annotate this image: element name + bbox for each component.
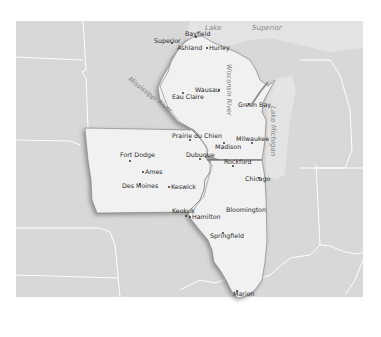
city-fort-dodge: Fort Dodge — [120, 151, 155, 159]
city-rockford: Rockford — [224, 158, 252, 165]
city-hamilton: Hamilton — [192, 213, 221, 220]
city-madison: Madison — [215, 143, 241, 150]
city-marion: Marion — [233, 290, 254, 297]
city-prairie-du-chien: Prairie du Chien — [172, 132, 222, 139]
city-hurley: Hurley — [209, 44, 230, 52]
city-dubuque: Dubuque — [186, 151, 215, 159]
city-springfield: Springfield — [210, 232, 244, 240]
regional-map: Lake Superior Lake Michigan Mississippi … — [0, 0, 381, 337]
lake-michigan-label: Lake Michigan — [269, 106, 277, 156]
city-milwaukee: Milwaukee — [236, 135, 269, 142]
city-keswick: Keswick — [171, 183, 196, 190]
city-green-bay: Green Bay — [238, 101, 271, 109]
city-wausau: Wausau — [195, 86, 220, 93]
city-bloomington: Bloomington — [226, 206, 266, 214]
city-des-moines: Des Moines — [122, 182, 158, 189]
city-eau-claire: Eau Claire — [172, 93, 204, 100]
lake-superior-label-2: Superior — [252, 24, 283, 32]
city-chicago: Chicago — [245, 175, 270, 183]
city-ashland: Ashland — [177, 44, 202, 51]
wisconsin-river-label: Wisconsin River — [225, 64, 233, 117]
city-bayfield: Bayfield — [185, 30, 211, 38]
city-ames: Ames — [145, 168, 163, 175]
